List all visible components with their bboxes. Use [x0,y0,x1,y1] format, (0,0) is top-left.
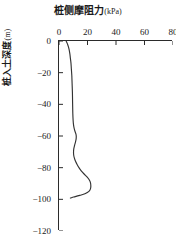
y-tick-label: −40 [17,99,51,109]
chart-title-unit: (kPa) [104,7,121,16]
y-tick-label: −100 [17,194,51,204]
plot-svg [59,41,173,231]
chart-title: 桩侧摩阻力(kPa) [0,5,176,18]
y-tick-label: 0 [17,36,51,46]
chart-figure: 桩侧摩阻力(kPa) 桩入土深度(m) 020406080 0−20−40−60… [0,0,176,248]
series-line-pile-friction [66,41,91,198]
y-axis-title: 桩入土深度(m) [2,70,13,86]
y-axis-title-unit: (m) [3,29,12,41]
caption-sliver [0,240,176,248]
y-axis-ticks [59,41,63,231]
x-tick-label: 80 [161,27,176,37]
y-tick-label: −120 [17,226,51,236]
plot-area: 020406080 0−20−40−60−80−100−120 [58,40,172,230]
y-tick-label: −80 [17,163,51,173]
x-tick-label: 20 [76,27,100,37]
y-tick-label: −60 [17,131,51,141]
y-axis-title-text: 桩入土深度 [2,41,12,86]
chart-title-text: 桩侧摩阻力 [54,5,104,16]
y-tick-label: −20 [17,68,51,78]
x-tick-label: 60 [133,27,157,37]
x-tick-label: 40 [104,27,128,37]
x-axis-ticks [59,41,173,45]
